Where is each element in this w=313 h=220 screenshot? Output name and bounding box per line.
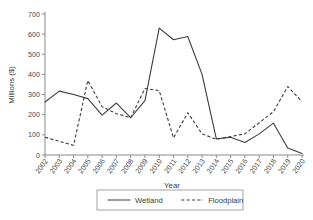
x-axis-tick-label: 2016 — [233, 157, 250, 175]
y-axis: 0100200300400500600700 — [28, 10, 45, 160]
y-axis-tick-label: 700 — [28, 10, 40, 19]
x-axis-tick-label: 2003 — [48, 157, 65, 175]
y-axis-tick-label: 0 — [36, 151, 40, 160]
data-series-group — [45, 28, 302, 153]
y-axis-tick-label: 600 — [28, 30, 40, 39]
x-axis-tick-label: 2019 — [276, 157, 293, 175]
x-axis-tick-label: 2004 — [62, 157, 79, 175]
series-line-floodplain — [45, 80, 302, 145]
x-axis-tick-label: 2008 — [119, 157, 136, 175]
series-line-wetland — [45, 28, 302, 153]
y-axis-title: Millions ($) — [7, 66, 16, 104]
y-axis-tick-label: 400 — [28, 70, 40, 79]
y-axis-tick-label: 100 — [28, 130, 40, 139]
legend-label-wetland: Wetland — [135, 196, 163, 205]
x-axis-tick-label: 2002 — [33, 157, 50, 175]
x-axis-tick-label: 2015 — [219, 157, 236, 175]
line-chart: 0100200300400500600700 20022003200420052… — [0, 0, 313, 220]
x-axis-tick-label: 2014 — [205, 157, 222, 175]
chart-legend: WetlandFloodplain — [97, 190, 243, 210]
x-axis-tick-label: 2005 — [76, 157, 93, 175]
x-axis-tick-label: 2018 — [262, 157, 279, 175]
legend-label-floodplain: Floodplain — [208, 196, 243, 205]
x-axis-tick-label: 2020 — [290, 157, 307, 175]
x-axis-tick-label: 2011 — [162, 157, 178, 175]
y-axis-tick-label: 500 — [28, 50, 40, 59]
x-axis: 2002200320042005200620072008200920102011… — [33, 155, 307, 175]
x-axis-title: Year — [164, 181, 180, 190]
x-axis-tick-label: 2012 — [176, 157, 193, 175]
x-axis-tick-label: 2009 — [133, 157, 150, 175]
x-axis-tick-label: 2017 — [247, 157, 264, 175]
x-axis-tick-label: 2013 — [190, 157, 207, 175]
y-axis-tick-label: 300 — [28, 90, 40, 99]
x-axis-tick-label: 2006 — [90, 157, 107, 175]
x-axis-tick-label: 2010 — [148, 157, 165, 175]
chart-container: 0100200300400500600700 20022003200420052… — [0, 0, 313, 220]
x-axis-tick-label: 2007 — [105, 157, 122, 175]
y-axis-tick-label: 200 — [28, 110, 40, 119]
